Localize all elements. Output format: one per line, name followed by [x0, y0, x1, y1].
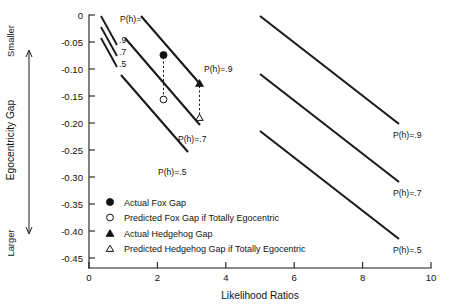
right-line-label-p5: P(h)=.5 [393, 245, 422, 255]
egocentricity-gap-line-chart: 0 -0.05 -0.10 -0.15 -0.20 -0.25 -0.30 -0… [0, 0, 450, 307]
legend-label-actual-hedgehog-gap: Actual Hedgehog Gap [124, 229, 213, 239]
y-tick-label-8: -0.40 [61, 226, 83, 237]
short-group-header-label: P(h)= [120, 14, 141, 24]
x-tick-label-4: 8 [360, 272, 365, 283]
right-line-p5 [260, 131, 399, 239]
legend-marker-filled-triangle [106, 230, 114, 237]
right-line-p7 [260, 74, 399, 182]
x-axis-ticks [89, 262, 431, 268]
y-tick-label-7: -0.35 [61, 199, 83, 210]
y-tick-label-1: -0.05 [61, 37, 83, 48]
x-axis-tick-labels: 0 2 4 6 8 10 [86, 272, 436, 283]
middle-line-group: P(h)=.9 P(h)=.7 P(h)=.5 [121, 16, 233, 177]
legend-label-actual-fox-gap: Actual Fox Gap [124, 198, 186, 208]
x-axis-title: Likelihood Ratios [221, 290, 299, 301]
right-line-label-p9: P(h)=.9 [393, 130, 422, 140]
y-tick-label-9: -0.45 [61, 253, 83, 264]
chart-figure: 0 -0.05 -0.10 -0.15 -0.20 -0.25 -0.30 -0… [0, 0, 450, 307]
point-connectors [164, 57, 200, 117]
short-line-label-p7: .7 [119, 47, 126, 57]
y-axis-tick-labels: 0 -0.05 -0.10 -0.15 -0.20 -0.25 -0.30 -0… [61, 10, 83, 264]
legend-marker-filled-circle [106, 198, 113, 205]
y-tick-label-0: 0 [78, 10, 83, 21]
middle-line-p9 [141, 16, 200, 84]
legend-marker-open-circle [107, 214, 114, 221]
y-tick-label-3: -0.15 [61, 91, 83, 102]
short-line-group: P(h)= .9 .7 .5 [101, 14, 141, 69]
x-tick-label-0: 0 [86, 272, 91, 283]
y-axis-ticks [89, 15, 95, 258]
marker-predicted-hedgehog-gap [196, 114, 203, 120]
marker-actual-fox-gap [160, 51, 167, 58]
legend-marker-open-triangle [106, 245, 113, 251]
y-tick-label-2: -0.10 [61, 64, 83, 75]
middle-line-p7 [125, 38, 200, 125]
y-axis-title: Egocentricity Gap [5, 99, 16, 180]
right-line-group: P(h)=.9 P(h)=.7 P(h)=.5 [260, 16, 422, 255]
x-tick-label-3: 6 [292, 272, 297, 283]
middle-line-label-p9: P(h)=.9 [204, 64, 233, 74]
legend-label-predicted-hedgehog-gap: Predicted Hedgehog Gap if Totally Egocen… [124, 244, 306, 254]
short-line-label-p9: .9 [119, 35, 126, 45]
right-line-label-p7: P(h)=.7 [393, 188, 422, 198]
x-tick-label-2: 4 [223, 272, 229, 283]
legend-label-predicted-fox-gap: Predicted Fox Gap if Totally Egocentric [124, 213, 279, 223]
y-tick-label-6: -0.30 [61, 172, 83, 183]
legend: Actual Fox Gap Predicted Fox Gap if Tota… [106, 198, 306, 255]
right-line-p9 [260, 16, 399, 124]
y-axis-bottom-label: Larger [5, 229, 16, 256]
marker-predicted-fox-gap [160, 96, 167, 103]
y-tick-label-5: -0.25 [61, 145, 83, 156]
y-tick-label-4: -0.20 [61, 118, 83, 129]
short-line-label-p5: .5 [119, 59, 126, 69]
middle-line-label-p7: P(h)=.7 [178, 134, 207, 144]
y-axis-title-group: Egocentricity Gap Smaller Larger [5, 25, 32, 256]
x-tick-label-1: 2 [155, 272, 160, 283]
y-axis-top-label: Smaller [5, 25, 16, 57]
middle-line-label-p5: P(h)=.5 [158, 167, 187, 177]
x-tick-label-5: 10 [426, 272, 437, 283]
